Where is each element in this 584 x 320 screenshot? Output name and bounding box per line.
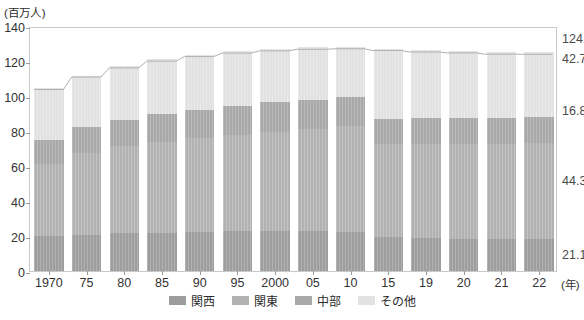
stacked-bar[interactable] xyxy=(72,75,101,271)
bar-segment-kanto xyxy=(374,144,403,237)
legend-swatch-icon xyxy=(169,296,186,305)
bar-segment-kansai xyxy=(72,235,101,271)
bar-segment-other xyxy=(298,47,327,99)
x-axis-tick-label: 22 xyxy=(532,276,546,290)
legend-label: 関東 xyxy=(254,292,278,309)
x-axis-tick-mark xyxy=(539,271,540,275)
legend-swatch-icon xyxy=(295,296,312,305)
x-axis-tick-mark xyxy=(313,271,314,275)
stacked-bar[interactable] xyxy=(260,49,289,271)
y-axis-tick-mark xyxy=(26,203,30,204)
bar-segment-other xyxy=(449,51,478,118)
stacked-bar[interactable] xyxy=(298,47,327,271)
y-axis-tick-label: 120 xyxy=(4,56,25,70)
bar-segment-chubu xyxy=(449,118,478,144)
x-axis-tick-mark xyxy=(388,271,389,275)
x-axis-tick-label: 75 xyxy=(80,276,94,290)
stacked-bar[interactable] xyxy=(34,88,63,271)
x-axis-tick-label: 80 xyxy=(117,276,131,290)
stacked-bar[interactable] xyxy=(336,47,365,271)
y-axis-tick-label: 0 xyxy=(18,266,25,280)
bar-segment-other xyxy=(185,55,214,110)
y-axis-tick-mark xyxy=(26,238,30,239)
y-axis-tick-mark xyxy=(26,168,30,169)
stacked-bar[interactable] xyxy=(374,49,403,271)
stacked-bar[interactable] xyxy=(487,52,516,271)
legend-item-kansai[interactable]: 関西 xyxy=(169,292,215,309)
bar-segment-chubu xyxy=(298,100,327,130)
x-axis-tick-label: 19 xyxy=(419,276,433,290)
x-axis-tick-mark xyxy=(49,271,50,275)
stacked-bar[interactable] xyxy=(110,66,139,271)
bar-segment-other xyxy=(487,52,516,118)
bar-segment-other xyxy=(336,47,365,97)
segment-value-label-chubu: 16.8 xyxy=(562,104,584,118)
x-axis-tick-mark xyxy=(162,271,163,275)
y-axis-tick-label: 80 xyxy=(11,126,25,140)
x-axis-tick-label: 85 xyxy=(155,276,169,290)
bar-segment-chubu xyxy=(223,106,252,135)
bar-segment-kansai xyxy=(260,231,289,271)
y-axis-tick-label: 20 xyxy=(11,231,25,245)
bar-segment-chubu xyxy=(72,127,101,152)
bar-segment-kansai xyxy=(223,231,252,271)
x-axis-tick-label: 10 xyxy=(344,276,358,290)
legend-item-kanto[interactable]: 関東 xyxy=(232,292,278,309)
legend-item-chubu[interactable]: 中部 xyxy=(295,292,341,309)
x-axis-tick-mark xyxy=(426,271,427,275)
stacked-bar[interactable] xyxy=(185,55,214,271)
bar-segment-kansai xyxy=(110,233,139,271)
bar-segment-chubu xyxy=(374,119,403,145)
x-axis-tick-label: 95 xyxy=(230,276,244,290)
bar-segment-other xyxy=(34,88,63,140)
stacked-bar[interactable] xyxy=(147,59,176,271)
bar-segment-chubu xyxy=(110,120,139,146)
y-axis-tick-mark xyxy=(26,63,30,64)
x-axis-tick-mark xyxy=(200,271,201,275)
bar-segment-kansai xyxy=(411,238,440,271)
bar-segment-chubu xyxy=(524,117,553,143)
bar-segment-kansai xyxy=(487,239,516,271)
plot-inner: 020406080100120140 197075808590952000051… xyxy=(30,28,556,271)
x-axis-tick-mark xyxy=(87,271,88,275)
y-axis-unit-caption: (百万人) xyxy=(4,4,46,20)
chart-legend: 関西関東中部その他 xyxy=(0,292,584,309)
stacked-bar[interactable] xyxy=(411,50,440,271)
bar-segment-kansai xyxy=(298,231,327,271)
x-axis-tick-mark xyxy=(351,271,352,275)
legend-swatch-icon xyxy=(232,296,249,305)
bar-segment-chubu xyxy=(487,118,516,143)
bar-segment-kanto xyxy=(185,138,214,232)
bar-segment-other xyxy=(72,76,101,127)
bar-segment-other xyxy=(147,59,176,114)
x-axis-tick-label: 1970 xyxy=(35,276,63,290)
chart-root: (百万人) 020406080100120140 197075808590952… xyxy=(0,0,584,320)
bar-segment-other xyxy=(260,49,289,102)
bar-segment-kansai xyxy=(336,232,365,271)
bar-segment-other xyxy=(374,49,403,119)
stacked-bar[interactable] xyxy=(524,52,553,271)
bar-group xyxy=(30,28,556,271)
x-axis-tick-mark xyxy=(275,271,276,275)
segment-value-label-kansai: 21.1 xyxy=(562,248,584,262)
x-axis-tick-mark xyxy=(124,271,125,275)
bar-segment-kansai xyxy=(374,237,403,271)
bar-segment-other xyxy=(524,52,553,117)
bar-segment-kansai xyxy=(34,236,63,271)
bar-segment-kanto xyxy=(147,142,176,233)
stacked-bar[interactable] xyxy=(449,51,478,271)
bar-segment-other xyxy=(223,51,252,106)
bar-segment-chubu xyxy=(336,97,365,127)
legend-label: その他 xyxy=(380,292,416,309)
x-axis-tick-label: 20 xyxy=(457,276,471,290)
legend-item-other[interactable]: その他 xyxy=(358,292,416,309)
total-value-label: 124.9 xyxy=(562,32,584,46)
bar-segment-kanto xyxy=(449,144,478,239)
bar-segment-chubu xyxy=(411,118,440,144)
x-axis-tick-label: 15 xyxy=(381,276,395,290)
bar-segment-chubu xyxy=(147,114,176,141)
y-axis-tick-mark xyxy=(26,133,30,134)
stacked-bar[interactable] xyxy=(223,51,252,271)
x-axis-tick-label: 21 xyxy=(494,276,508,290)
bar-segment-chubu xyxy=(260,102,289,131)
